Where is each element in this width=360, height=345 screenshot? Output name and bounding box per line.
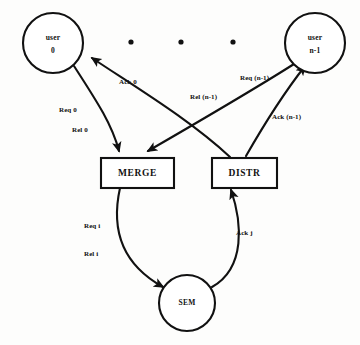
edge-label-rel-0: Rel 0	[72, 126, 88, 134]
edge-distr-to-user0-ack0	[92, 58, 230, 157]
node-distr-label: DISTR	[228, 168, 260, 178]
edge-label-ack-n1: Ack (n-1)	[272, 113, 302, 121]
node-user-left-label-line1: user	[46, 33, 61, 42]
ellipsis-dot-2	[178, 39, 183, 44]
node-user-left[interactable]	[23, 13, 83, 73]
edge-merge-to-sem-reqi	[117, 188, 163, 287]
node-user-left-label-line2: 0	[51, 46, 55, 55]
edge-label-rel-i: Rel i	[84, 250, 98, 258]
node-user-right-label-line1: user	[308, 33, 323, 42]
edge-label-ack-0: Ack 0	[119, 78, 137, 86]
edge-label-req-i: Req i	[84, 222, 100, 230]
edge-sem-to-distr-ackj	[212, 190, 239, 287]
diagram-canvas: user 0 user n-1 MERGE DISTR SEM Ack 0 Re…	[0, 0, 360, 345]
ellipsis-dot-3	[230, 39, 235, 44]
node-sem-label: SEM	[179, 298, 196, 307]
node-merge-label: MERGE	[118, 168, 157, 178]
edge-usern1-to-merge-reqn1	[148, 64, 294, 151]
edge-label-rel-n1: Rel (n-1)	[190, 93, 218, 101]
ellipsis-dot-1	[128, 39, 133, 44]
edge-label-ack-j: Ack j	[236, 229, 253, 237]
edge-user0-to-merge-req0	[74, 66, 119, 151]
node-user-right-label-line2: n-1	[309, 46, 320, 55]
node-user-right[interactable]	[285, 13, 345, 73]
diagram-svg: user 0 user n-1 MERGE DISTR SEM Ack 0 Re…	[0, 0, 360, 345]
edge-label-req-0: Req 0	[59, 106, 77, 114]
edge-label-req-n1: Req (n-1)	[240, 74, 270, 82]
